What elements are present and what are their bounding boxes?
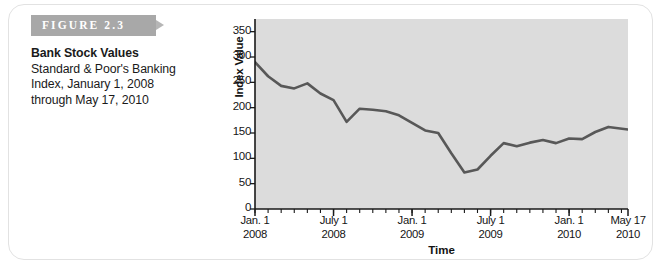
figure-number-banner: FIGURE 2.3 [31, 15, 156, 36]
x-tick-label-line-2: 2009 [459, 227, 523, 241]
x-tick-label-line-2: 2010 [537, 227, 601, 241]
x-tick-label-line-1: July 1 [459, 213, 523, 227]
figure-number-label: FIGURE 2.3 [42, 19, 125, 31]
x-tick-label: Jan. 12009 [380, 213, 444, 241]
x-tick-label-line-2: 2008 [302, 227, 366, 241]
figure-subtitle-line-3: through May 17, 2010 [31, 93, 216, 109]
banner-arrow-icon [156, 20, 164, 30]
figure-subtitle-line-1: Standard & Poor's Banking [31, 62, 216, 78]
x-axis-tick-labels: Jan. 12008July 12008Jan. 12009July 12009… [255, 213, 628, 247]
chart: Index Value 050100150200250300350 Jan. 1… [205, 13, 645, 258]
x-tick-label-line-1: Jan. 1 [537, 213, 601, 227]
x-tick-label-line-2: 2010 [596, 227, 660, 241]
x-tick-label-line-1: Jan. 1 [223, 213, 287, 227]
x-tick-label-line-2: 2009 [380, 227, 444, 241]
x-tick-label: July 12009 [459, 213, 523, 241]
figure-title: Bank Stock Values [31, 46, 216, 62]
x-tick-label-line-1: July 1 [302, 213, 366, 227]
figure-subtitle-line-2: Index, January 1, 2008 [31, 77, 216, 93]
figure-caption-block: FIGURE 2.3 Bank Stock Values Standard & … [31, 15, 216, 108]
x-tick-label-line-1: May 17 [596, 213, 660, 227]
x-tick-label-line-1: Jan. 1 [380, 213, 444, 227]
x-axis-title: Time [255, 244, 628, 256]
figure-container: FIGURE 2.3 Bank Stock Values Standard & … [8, 4, 653, 260]
x-tick-label-line-2: 2008 [223, 227, 287, 241]
x-tick-label: Jan. 12010 [537, 213, 601, 241]
x-tick-label: Jan. 12008 [223, 213, 287, 241]
x-tick-label: May 172010 [596, 213, 660, 241]
axis-lines-svg [205, 13, 645, 223]
x-tick-label: July 12008 [302, 213, 366, 241]
